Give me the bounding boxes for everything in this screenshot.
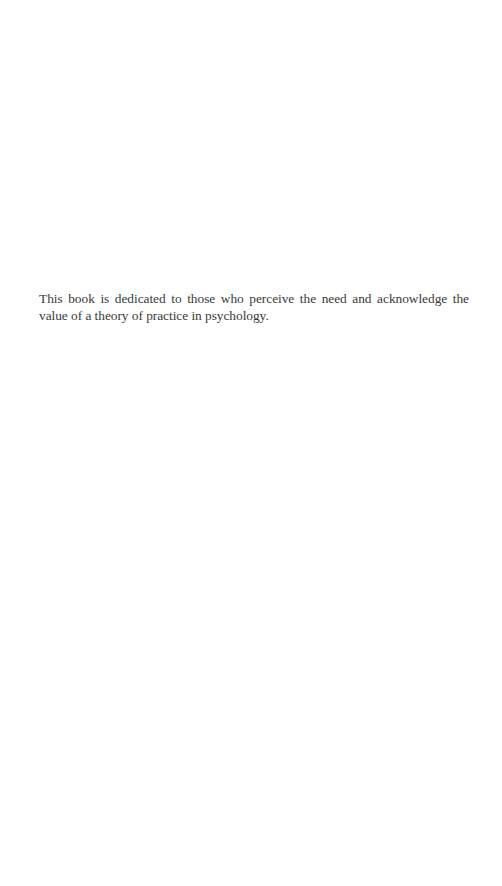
dedication-text: This book is dedicated to those who perc… bbox=[39, 291, 469, 324]
book-page: This book is dedicated to those who perc… bbox=[0, 0, 502, 886]
